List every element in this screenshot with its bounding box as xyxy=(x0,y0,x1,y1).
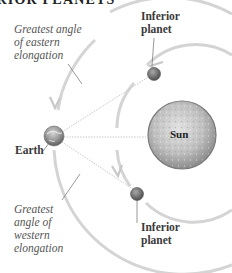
planet-icon xyxy=(148,68,161,81)
earth-label: Earth xyxy=(15,144,44,157)
eastern-elongation-label: Greatest angle of eastern elongation xyxy=(14,23,82,62)
inferior-planet-bottom-label: Inferior planet xyxy=(141,221,180,247)
inferior-planet-top-label: Inferior planet xyxy=(141,10,180,36)
planet-icon xyxy=(131,188,144,201)
sight-lines xyxy=(62,76,150,191)
earth-icon xyxy=(44,126,64,146)
sun-label: Sun xyxy=(170,128,188,140)
western-elongation-label: Greatest angle of western elongation xyxy=(14,203,63,255)
